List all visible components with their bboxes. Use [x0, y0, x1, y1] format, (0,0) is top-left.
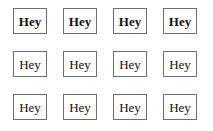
screenshot-canvas: HeyHeyHeyHeyHeyHeyHeyHeyHeyHeyHeyHey — [0, 0, 213, 131]
grid-cell-button[interactable]: Hey — [63, 51, 97, 77]
grid-cell-label: Hey — [169, 101, 191, 114]
grid-cell-label: Hey — [119, 101, 141, 114]
grid-cell-label: Hey — [119, 15, 141, 28]
grid-cell-label: Hey — [119, 58, 141, 71]
grid-cell-button[interactable]: Hey — [113, 8, 147, 34]
grid-cell-button[interactable]: Hey — [13, 8, 47, 34]
grid-cell-label: Hey — [69, 58, 91, 71]
grid-cell-label: Hey — [169, 58, 191, 71]
grid-cell-label: Hey — [169, 15, 191, 28]
grid-cell-label: Hey — [69, 101, 91, 114]
grid-cell-button[interactable]: Hey — [113, 51, 147, 77]
grid-cell-button[interactable]: Hey — [163, 94, 197, 120]
grid-cell-button[interactable]: Hey — [63, 94, 97, 120]
grid-cell-button[interactable]: Hey — [63, 8, 97, 34]
grid-cell-button[interactable]: Hey — [113, 94, 147, 120]
grid-cell-label: Hey — [69, 15, 91, 28]
grid-cell-button[interactable]: Hey — [13, 94, 47, 120]
grid-cell-button[interactable]: Hey — [13, 51, 47, 77]
grid-cell-label: Hey — [19, 101, 41, 114]
grid-cell-label: Hey — [19, 58, 41, 71]
grid-cell-label: Hey — [19, 15, 41, 28]
button-grid: HeyHeyHeyHeyHeyHeyHeyHeyHeyHeyHeyHey — [13, 8, 197, 120]
grid-cell-button[interactable]: Hey — [163, 8, 197, 34]
grid-cell-button[interactable]: Hey — [163, 51, 197, 77]
